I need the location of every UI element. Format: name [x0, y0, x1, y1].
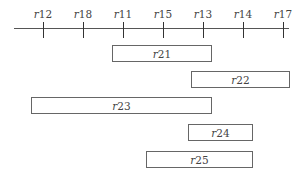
interval-r22: r22 — [191, 71, 290, 88]
interval-r23: r23 — [31, 97, 212, 114]
tick-label-num: 14 — [239, 8, 252, 20]
tick-r17 — [283, 22, 284, 38]
interval-label-num: 24 — [216, 127, 229, 139]
interval-label-num: 21 — [158, 48, 171, 60]
tick-label-num: 11 — [119, 8, 132, 20]
tick-label-num: 13 — [199, 8, 212, 20]
interval-label-num: 22 — [236, 74, 249, 86]
tick-label-r17: r17 — [268, 8, 298, 20]
tick-label-r14: r14 — [228, 8, 258, 20]
tick-label-num: 15 — [159, 8, 172, 20]
tick-label-num: 17 — [279, 8, 292, 20]
tick-label-r13: r13 — [188, 8, 218, 20]
interval-r24: r24 — [188, 124, 253, 141]
tick-r12 — [43, 22, 44, 38]
tick-r14 — [243, 22, 244, 38]
tick-label-r12: r12 — [28, 8, 58, 20]
tick-label-r18: r18 — [68, 8, 98, 20]
interval-diagram: r12 r18 r11 r15 r13 r14 r17 r21 r22 r23 … — [0, 0, 304, 179]
interval-r21: r21 — [112, 45, 212, 62]
tick-r11 — [123, 22, 124, 38]
tick-label-r15: r15 — [148, 8, 178, 20]
interval-label-num: 23 — [117, 100, 130, 112]
axis-line — [14, 28, 289, 29]
tick-r13 — [203, 22, 204, 38]
tick-label-r11: r11 — [108, 8, 138, 20]
tick-label-num: 18 — [79, 8, 92, 20]
interval-r25: r25 — [146, 151, 253, 168]
tick-r18 — [83, 22, 84, 38]
tick-label-num: 12 — [39, 8, 52, 20]
tick-r15 — [163, 22, 164, 38]
interval-label-num: 25 — [195, 154, 208, 166]
